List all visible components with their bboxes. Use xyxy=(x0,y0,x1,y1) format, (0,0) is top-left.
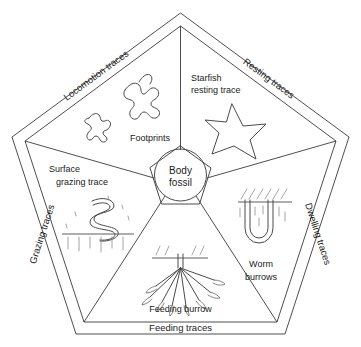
feeding-burrow-label: Feeding burrow xyxy=(149,304,212,314)
worm-burrows-label-line1: Worm xyxy=(249,259,273,269)
sector-dwelling: Worm burrows xyxy=(238,189,292,282)
diagram-canvas: Body fossil Footprints Starfish resting … xyxy=(0,0,361,347)
divider-upper-left xyxy=(25,141,154,178)
worm-burrows-label-line2: burrows xyxy=(245,272,278,282)
dwelling-surface-hatching xyxy=(241,189,287,199)
sector-locomotion: Footprints xyxy=(85,74,171,143)
branching-burrow-icon xyxy=(150,254,214,306)
body-fossil-label-line2: fossil xyxy=(169,177,192,188)
footprint-blob-lobe-a xyxy=(139,74,152,84)
category-grazing-traces: Grazing traces xyxy=(27,203,57,265)
category-resting-traces: Resting traces xyxy=(241,56,297,101)
starfish-label-line1: Starfish xyxy=(191,73,222,83)
sector-feeding: Feeding burrow xyxy=(142,246,225,316)
meander-trace-inner xyxy=(90,203,115,240)
category-feeding-label: Feeding traces xyxy=(149,322,212,333)
sector-grazing: Surface grazing trace xyxy=(49,164,134,252)
body-fossil-label-line1: Body xyxy=(169,165,192,176)
category-locomotion-label: Locomotion traces xyxy=(61,48,130,103)
category-locomotion-traces: Locomotion traces xyxy=(61,48,130,103)
category-dwelling-label: Dwelling traces xyxy=(303,202,333,267)
footprint-blob-small-icon xyxy=(85,114,111,142)
footprints-label: Footprints xyxy=(130,133,171,143)
surface-grazing-label-line2: grazing trace xyxy=(56,177,108,187)
category-dwelling-traces: Dwelling traces xyxy=(303,202,333,267)
trace-fossil-pentagon-diagram: Body fossil Footprints Starfish resting … xyxy=(0,0,361,347)
grazing-sediment-dashes xyxy=(68,237,123,252)
footprint-blobs-icon xyxy=(124,83,160,119)
dwelling-sediment-dashes xyxy=(240,206,285,226)
feeding-surface-hatching xyxy=(156,246,204,255)
starfish-icon xyxy=(205,104,266,159)
sector-resting: Starfish resting trace xyxy=(191,73,266,159)
category-resting-label: Resting traces xyxy=(241,56,297,101)
surface-grazing-label-line1: Surface xyxy=(49,164,80,174)
category-feeding-traces: Feeding traces xyxy=(149,322,212,333)
divider-upper-right xyxy=(207,141,336,178)
body-fossil-core: Body fossil xyxy=(150,146,211,204)
starfish-label-line2: resting trace xyxy=(191,85,241,95)
category-grazing-label: Grazing traces xyxy=(27,203,57,265)
meander-trace-icon xyxy=(92,199,118,242)
